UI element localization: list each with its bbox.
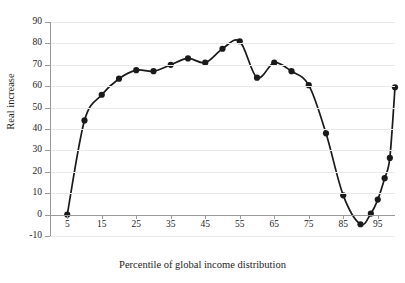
series-path — [67, 40, 395, 225]
data-point-marker — [375, 197, 381, 203]
data-point-marker — [133, 67, 139, 73]
y-tick-label: 90 — [2, 16, 42, 26]
y-tick-mark — [45, 108, 50, 109]
x-tick-label: 65 — [259, 219, 289, 229]
x-axis-title: Percentile of global income distribution — [0, 259, 405, 270]
plot-area — [50, 22, 395, 236]
y-tick-mark — [45, 215, 50, 216]
y-tick-mark — [45, 129, 50, 130]
gridline — [50, 193, 395, 194]
data-point-marker — [392, 84, 398, 90]
y-tick-label: 20 — [2, 166, 42, 176]
x-tick-label: 55 — [225, 219, 255, 229]
gridline — [50, 129, 395, 130]
y-tick-label: 0 — [2, 209, 42, 219]
y-tick-label: 10 — [2, 187, 42, 197]
gridline — [50, 65, 395, 66]
data-point-marker — [150, 68, 156, 74]
y-tick-mark — [45, 86, 50, 87]
gridline — [50, 86, 395, 87]
data-point-marker — [219, 46, 225, 52]
x-tick-label: 15 — [87, 219, 117, 229]
y-tick-mark — [45, 193, 50, 194]
data-point-marker — [382, 175, 388, 181]
gridline — [50, 236, 395, 237]
x-tick-label: 95 — [363, 219, 393, 229]
data-point-marker — [288, 68, 294, 74]
y-tick-mark — [45, 22, 50, 23]
x-tick-label: 45 — [190, 219, 220, 229]
y-axis-line — [50, 22, 51, 236]
x-tick-label: 5 — [52, 219, 82, 229]
data-point-marker — [185, 55, 191, 61]
data-point-marker — [323, 130, 329, 136]
gridline — [50, 22, 395, 23]
data-point-marker — [306, 82, 312, 88]
x-tick-label: 25 — [121, 219, 151, 229]
y-tick-mark — [45, 172, 50, 173]
y-tick-label: 80 — [2, 37, 42, 47]
y-tick-label: -10 — [2, 230, 42, 240]
data-point-marker — [116, 76, 122, 82]
gridline — [50, 172, 395, 173]
x-tick-label: 85 — [328, 219, 358, 229]
data-point-marker — [254, 75, 260, 81]
y-tick-mark — [45, 65, 50, 66]
data-point-marker — [368, 210, 374, 216]
data-point-marker — [387, 155, 393, 161]
chart-container: -100102030405060708090 51525354555657585… — [0, 0, 405, 283]
y-tick-mark — [45, 150, 50, 151]
y-tick-mark — [45, 43, 50, 44]
data-point-marker — [81, 117, 87, 123]
gridline — [50, 150, 395, 151]
data-point-marker — [99, 92, 105, 98]
gridline — [50, 108, 395, 109]
x-tick-label: 35 — [156, 219, 186, 229]
x-tick-label: 75 — [294, 219, 324, 229]
gridline — [50, 43, 395, 44]
y-axis-title: Real increase — [5, 54, 16, 150]
y-tick-mark — [45, 236, 50, 237]
